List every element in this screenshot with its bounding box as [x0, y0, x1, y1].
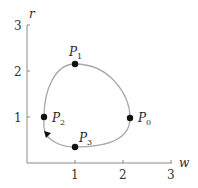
- label-p0: P0: [137, 111, 151, 127]
- label-p3: P3: [78, 131, 92, 147]
- x-tick-label-2: 2: [119, 168, 127, 182]
- y-tick-label-2: 2: [14, 65, 22, 79]
- orbit-diagram: 1 2 3 1 2 3 r w P0 P1 P2 P3: [0, 0, 198, 188]
- y-tick-label-3: 3: [14, 19, 22, 33]
- label-p1: P1: [68, 45, 82, 61]
- point-p1: [72, 61, 78, 67]
- tick-labels: 1 2 3 1 2 3: [14, 19, 175, 182]
- label-p2: P2: [51, 111, 65, 127]
- point-labels: P0 P1 P2 P3: [51, 45, 151, 147]
- y-tick-label-1: 1: [14, 111, 22, 125]
- axes: [27, 25, 172, 163]
- x-tick-label-3: 3: [167, 168, 175, 182]
- point-p3: [72, 144, 78, 150]
- y-axis-label: r: [29, 7, 36, 21]
- x-axis-label: w: [179, 156, 190, 170]
- x-tick-label-1: 1: [71, 168, 79, 182]
- point-p0: [127, 115, 133, 121]
- point-p2: [41, 114, 47, 120]
